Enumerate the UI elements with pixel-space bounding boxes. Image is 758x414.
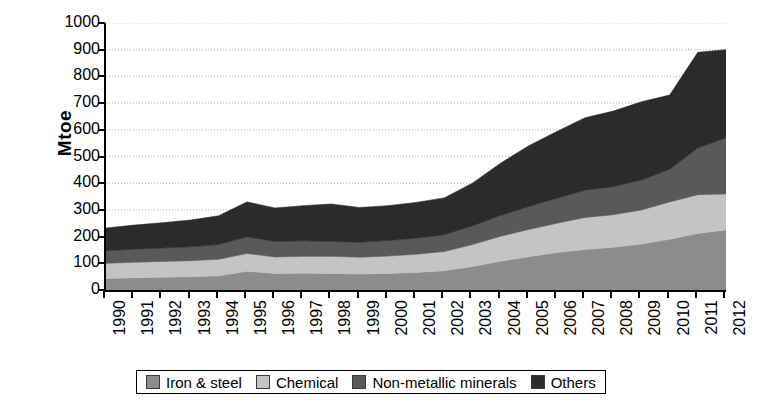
y-axis-tick-label: 400 [48,175,100,189]
x-axis-tick-label: 1993 [196,300,214,354]
chart-container: Mtoe 01002003004005006007008009001000 19… [0,0,758,414]
x-axis-tick-mark [159,290,161,298]
x-axis-tick-mark [188,290,190,298]
y-axis-tick-label: 200 [48,229,100,243]
y-axis-tick-label: 900 [48,42,100,56]
stacked-area-svg [106,23,726,290]
legend-item[interactable]: Others [531,375,596,390]
y-axis-tick-labels: 01002003004005006007008009001000 [40,23,100,290]
x-axis-tick-mark [357,290,359,298]
x-axis-tick-mark [667,290,669,298]
x-axis-tick-mark [385,290,387,298]
y-axis-tick-label: 600 [48,122,100,136]
y-axis-tick-label: 1000 [48,15,100,29]
legend-item-label: Chemical [276,375,339,390]
x-axis-tick-mark [244,290,246,298]
x-axis-tick-label: 1999 [365,300,383,354]
x-axis-tick-mark [103,290,105,298]
x-axis-tick-label: 2007 [590,300,608,354]
y-axis-tick-label: 0 [48,282,100,296]
x-axis-tick-label: 1992 [167,300,185,354]
x-axis-tick-label: 2004 [506,300,524,354]
x-axis-tick-mark [413,290,415,298]
x-axis-tick-label: 2009 [646,300,664,354]
legend-swatch-icon [352,375,366,389]
x-axis-tick-label: 2000 [393,300,411,354]
x-axis-tick-mark [328,290,330,298]
x-axis-tick-mark [441,290,443,298]
legend-swatch-icon [146,375,160,389]
x-axis-tick-mark [498,290,500,298]
x-axis-tick-label: 1995 [252,300,270,354]
x-axis-tick-label: 2011 [703,300,721,354]
x-axis-tick-mark [610,290,612,298]
legend-swatch-icon [256,375,270,389]
y-axis-tick-label: 500 [48,149,100,163]
x-axis-tick-mark [469,290,471,298]
x-axis-tick-label: 2005 [534,300,552,354]
chart-legend: Iron & steelChemicalNon-metallic mineral… [136,370,606,394]
x-axis-tick-label: 1998 [336,300,354,354]
legend-item[interactable]: Non-metallic minerals [352,375,516,390]
x-axis-tick-mark [300,290,302,298]
legend-item-label: Others [551,375,596,390]
x-axis-tick-label: 2002 [449,300,467,354]
x-axis-tick-mark [638,290,640,298]
y-axis-tick-label: 300 [48,202,100,216]
x-axis-tick-label: 2006 [562,300,580,354]
y-axis-tick-label: 100 [48,255,100,269]
legend-item-label: Iron & steel [166,375,242,390]
x-axis-tick-label: 2012 [731,300,749,354]
x-axis-tick-label: 1991 [139,300,157,354]
y-axis-tick-label: 700 [48,95,100,109]
y-axis-tick-label: 800 [48,68,100,82]
x-axis-tick-label: 2001 [421,300,439,354]
legend-item-label: Non-metallic minerals [372,375,516,390]
x-axis-tick-mark [695,290,697,298]
x-axis-tick-mark [216,290,218,298]
plot-area [104,23,726,292]
x-axis-tick-label: 2008 [618,300,636,354]
x-axis-tick-mark [272,290,274,298]
x-axis-tick-label: 1997 [308,300,326,354]
x-axis-tick-label: 2003 [477,300,495,354]
x-axis-tick-label: 2010 [675,300,693,354]
x-axis-tick-mark [131,290,133,298]
x-axis-tick-label: 1990 [111,300,129,354]
x-axis-tick-mark [723,290,725,298]
x-axis-tick-mark [582,290,584,298]
x-axis-tick-mark [554,290,556,298]
x-axis-tick-label: 1996 [280,300,298,354]
x-axis-tick-mark [526,290,528,298]
legend-swatch-icon [531,375,545,389]
x-axis-tick-label: 1994 [224,300,242,354]
legend-item[interactable]: Chemical [256,375,339,390]
legend-item[interactable]: Iron & steel [146,375,242,390]
